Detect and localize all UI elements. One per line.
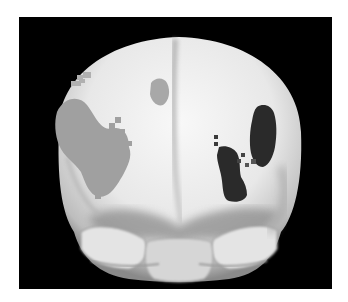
brain-render-frame	[19, 17, 332, 289]
brain-render	[19, 17, 332, 289]
